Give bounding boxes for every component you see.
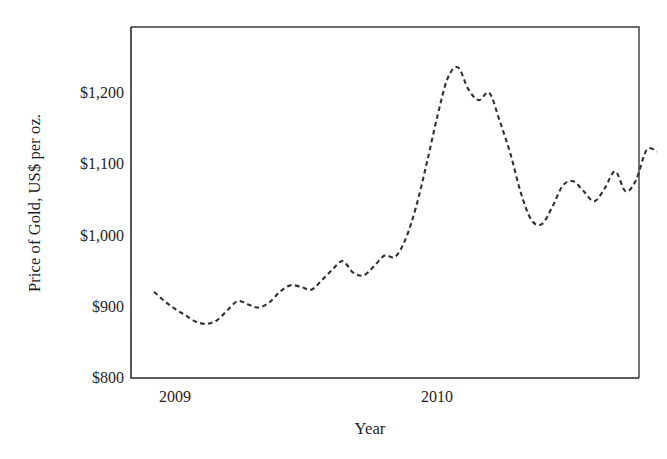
gold-price-chart-figure: $800 $900 $1,000 $1,100 $1,200 2009 2010… <box>0 0 667 459</box>
chart-canvas: $800 $900 $1,000 $1,100 $1,200 2009 2010… <box>0 0 667 459</box>
x-tick-label-2010: 2010 <box>421 388 453 405</box>
y-tick-label-1100: $1,100 <box>80 155 124 172</box>
x-tick-label-2009: 2009 <box>159 388 191 405</box>
x-axis-title: Year <box>355 419 386 438</box>
y-tick-label-800: $800 <box>92 369 124 386</box>
y-tick-label-900: $900 <box>92 298 124 315</box>
y-tick-label-1000: $1,000 <box>80 227 124 244</box>
y-tick-label-1200: $1,200 <box>80 84 124 101</box>
y-axis-title: Price of Gold, US$ per oz. <box>25 114 44 292</box>
